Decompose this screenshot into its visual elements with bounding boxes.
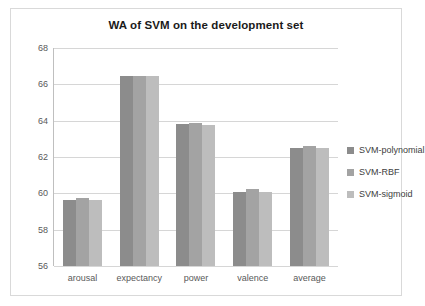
bar[interactable] (316, 148, 329, 266)
x-axis-tick-label: valence (237, 273, 268, 283)
y-axis-tick-label: 66 (38, 79, 48, 89)
bar[interactable] (146, 76, 159, 266)
legend-swatch-icon (347, 191, 354, 198)
legend-label: SVM-RBF (359, 167, 400, 177)
legend-item[interactable]: SVM-polynomial (347, 145, 425, 155)
bar-group: valence (233, 48, 272, 266)
x-axis-tick-label: power (184, 273, 209, 283)
y-axis-tick-label: 62 (38, 152, 48, 162)
legend-label: SVM-sigmoid (359, 189, 413, 199)
y-axis-tick-label: 58 (38, 225, 48, 235)
bar[interactable] (89, 200, 102, 266)
y-axis-tick-label: 68 (38, 43, 48, 53)
chart-legend: SVM-polynomialSVM-RBFSVM-sigmoid (347, 145, 425, 199)
bar-groups: arousalexpectancypowervalenceaverage (54, 48, 338, 266)
bar[interactable] (233, 192, 246, 266)
bar-group: power (176, 48, 215, 266)
bar[interactable] (246, 189, 259, 266)
y-axis-tick-label: 56 (38, 261, 48, 271)
bar[interactable] (290, 148, 303, 266)
bar[interactable] (63, 200, 76, 266)
bar-group: arousal (63, 48, 102, 266)
y-axis-tick-label: 64 (38, 116, 48, 126)
plot-area: 56586062646668 arousalexpectancypowerval… (53, 48, 337, 266)
x-axis-tick-label: expectancy (116, 273, 162, 283)
bar[interactable] (259, 192, 272, 266)
x-axis-tick-label: average (293, 273, 326, 283)
bar-group: average (290, 48, 329, 266)
bar[interactable] (303, 146, 316, 266)
bar[interactable] (120, 76, 133, 266)
legend-item[interactable]: SVM-sigmoid (347, 189, 425, 199)
legend-item[interactable]: SVM-RBF (347, 167, 425, 177)
legend-label: SVM-polynomial (359, 145, 425, 155)
gridline: 56 (54, 266, 338, 267)
bar[interactable] (133, 76, 146, 266)
chart-title: WA of SVM on the development set (11, 19, 401, 31)
bar[interactable] (176, 124, 189, 266)
x-axis-tick-label: arousal (68, 273, 98, 283)
bar[interactable] (202, 125, 215, 266)
y-axis-tick-label: 60 (38, 188, 48, 198)
bar-group: expectancy (120, 48, 159, 266)
legend-swatch-icon (347, 169, 354, 176)
chart-frame: WA of SVM on the development set 5658606… (10, 8, 402, 296)
legend-swatch-icon (347, 147, 354, 154)
bar[interactable] (76, 198, 89, 266)
bar[interactable] (189, 123, 202, 266)
